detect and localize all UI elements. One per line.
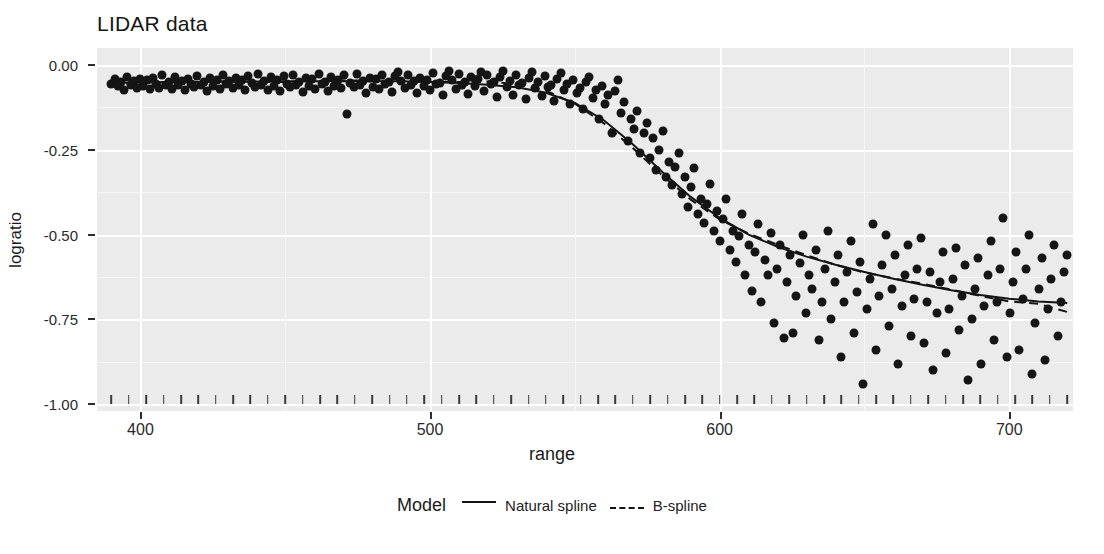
y-axis-tick-label: 0.00	[0, 56, 78, 73]
solid-line-key-icon	[462, 501, 496, 515]
x-axis-tick-mark	[1009, 412, 1011, 419]
x-axis-tick-label: 700	[969, 421, 1049, 439]
legend-title: Model	[397, 495, 446, 516]
legend-label-b-spline: B-spline	[653, 497, 707, 514]
y-axis-tick-mark	[88, 149, 95, 151]
x-axis-tick-label: 500	[390, 421, 470, 439]
x-axis-tick-mark	[720, 412, 722, 419]
plot-panel	[97, 48, 1073, 411]
legend-item-b-spline[interactable]: B-spline	[610, 497, 707, 514]
x-axis-tick-mark	[430, 412, 432, 419]
y-axis-tick-mark	[88, 64, 95, 66]
legend-label-natural-spline: Natural spline	[505, 497, 597, 514]
y-axis-tick-mark	[88, 234, 95, 236]
y-axis-tick-label: -0.75	[0, 311, 78, 328]
x-axis-tick-label: 600	[680, 421, 760, 439]
legend: Model Natural spline B-spline	[0, 495, 1104, 516]
dashed-line-key-icon	[610, 507, 644, 509]
y-axis-tick-label: -1.00	[0, 396, 78, 413]
x-axis-label: range	[0, 444, 1104, 465]
x-axis-tick-mark	[140, 412, 142, 419]
y-axis-tick-label: -0.50	[0, 226, 78, 243]
y-axis-tick-mark	[88, 403, 95, 405]
y-axis-tick-mark	[88, 318, 95, 320]
y-axis-tick-label: -0.25	[0, 141, 78, 158]
page-title: LIDAR data	[97, 12, 208, 36]
b-spline-path	[111, 81, 1067, 312]
spline-curves	[97, 48, 1073, 411]
x-axis-tick-label: 400	[100, 421, 180, 439]
legend-item-natural-spline[interactable]: Natural spline	[462, 496, 597, 515]
lidar-chart-figure: LIDAR data logratio range 0.00-0.25-0.50…	[0, 0, 1104, 554]
